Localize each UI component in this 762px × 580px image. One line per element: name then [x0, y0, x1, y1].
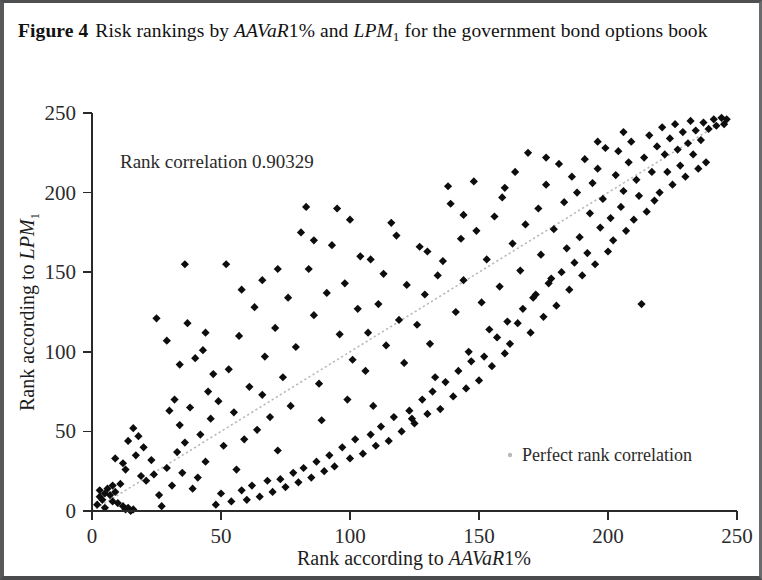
scatter-point [666, 134, 674, 142]
scatter-point [132, 451, 140, 459]
scatter-point [176, 360, 184, 368]
scatter-point [292, 343, 300, 351]
legend-label: Perfect rank correlation [522, 445, 692, 465]
scatter-point [601, 144, 609, 152]
scatter-point [516, 267, 524, 275]
scatter-point [173, 448, 181, 456]
scatter-point [240, 435, 248, 443]
scatter-point [158, 502, 166, 510]
scatter-point [539, 313, 547, 321]
scatter-point [599, 195, 607, 203]
scatter-point [694, 165, 702, 173]
axis-title-math-tail: 1% [504, 547, 531, 569]
scatter-point [653, 142, 661, 150]
scatter-point [336, 330, 344, 338]
scatter-point [676, 161, 684, 169]
scatter-point [454, 367, 462, 375]
scatter-point [557, 268, 565, 276]
scatter-point [524, 149, 532, 157]
scatter-point [214, 397, 222, 405]
scatter-point [364, 329, 372, 337]
scatter-point [207, 415, 215, 423]
scatter-point [204, 388, 212, 396]
scatter-point [183, 319, 191, 327]
scatter-point [635, 192, 643, 200]
scatter-point [354, 305, 362, 313]
scatter-point [550, 225, 558, 233]
scatter-point [692, 126, 700, 134]
scatter-point [488, 362, 496, 370]
scatter-point [359, 450, 367, 458]
scatter-point [519, 305, 527, 313]
scatter-point [650, 196, 658, 204]
scatter-point [421, 290, 429, 298]
scatter-point [163, 464, 171, 472]
scatter-point [256, 493, 264, 501]
scatter-point [477, 298, 485, 306]
scatter-point [630, 216, 638, 224]
scatter-point [614, 147, 622, 155]
scatter-point [441, 378, 449, 386]
scatter-point [351, 435, 359, 443]
scatter-point [186, 403, 194, 411]
scatter-point [622, 227, 630, 235]
scatter-plot: 050100150200250 050100150200250 Rank acc… [4, 3, 762, 580]
scatter-point [367, 255, 375, 263]
scatter-point [431, 373, 439, 381]
rank-correlation-annotation: Rank correlation 0.90329 [120, 151, 314, 172]
scatter-point [686, 117, 694, 125]
scatter-point [434, 271, 442, 279]
scatter-point [465, 348, 473, 356]
scatter-point [287, 402, 295, 410]
scatter-point [640, 153, 648, 161]
scatter-point [201, 458, 209, 466]
scatter-point [570, 259, 578, 267]
scatter-point [506, 340, 514, 348]
scatter-point [426, 340, 434, 348]
scatter-point [527, 329, 535, 337]
scatter-point [217, 489, 225, 497]
scatter-point [493, 333, 501, 341]
scatter-point [643, 208, 651, 216]
scatter-point [152, 314, 160, 322]
scatter-point [116, 480, 124, 488]
scatter-point [325, 451, 333, 459]
scatter-point [374, 300, 382, 308]
scatter-point [581, 155, 589, 163]
scatter-point [307, 473, 315, 481]
scatter-point [248, 481, 256, 489]
scatter-point [238, 486, 246, 494]
scatter-point [274, 446, 282, 454]
x-tick-label: 150 [463, 524, 495, 548]
scatter-point [485, 325, 493, 333]
x-tick-label: 0 [87, 524, 98, 548]
scatter-point [400, 359, 408, 367]
scatter-point [227, 497, 235, 505]
scatter-point [632, 176, 640, 184]
scatter-point [612, 171, 620, 179]
scatter-point [625, 158, 633, 166]
scatter-point [568, 173, 576, 181]
x-axis-title: Rank according to AAVaR1% [297, 547, 531, 570]
legend-dot-icon [508, 453, 512, 457]
scatter-point [318, 416, 326, 424]
y-axis-ticks: 050100150200250 [45, 101, 93, 523]
scatter-point [503, 317, 511, 325]
scatter-point [163, 337, 171, 345]
scatter-point [140, 443, 148, 451]
scatter-point [235, 332, 243, 340]
scatter-point [689, 150, 697, 158]
scatter-point [328, 241, 336, 249]
scatter-point [168, 481, 176, 489]
scatter-point [413, 321, 421, 329]
axis-title-plain: Rank according to [16, 259, 39, 411]
scatter-point [483, 255, 491, 263]
scatter-point [137, 472, 145, 480]
scatter-point [372, 442, 380, 450]
scatter-point [250, 303, 258, 311]
scatter-point [596, 224, 604, 232]
scatter-point [591, 260, 599, 268]
scatter-point [472, 227, 480, 235]
scatter-point [323, 289, 331, 297]
y-axis-title: Rank according to LPM1 [16, 213, 42, 411]
